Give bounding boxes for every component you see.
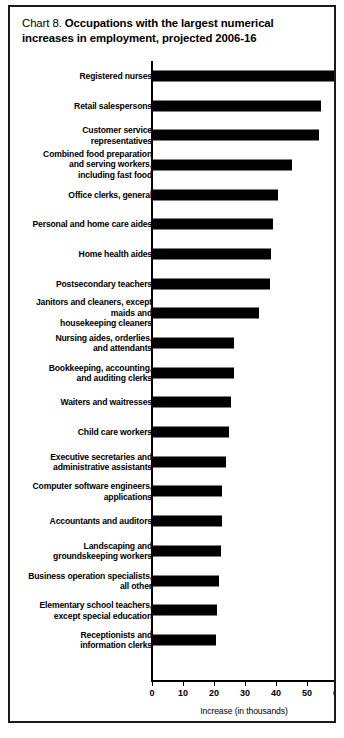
bar-row: Executive secretaries and administrative…	[10, 447, 336, 477]
bar	[152, 605, 217, 616]
bar-row: Bookkeeping, accounting, and auditing cl…	[10, 358, 336, 388]
bar-category-label: Elementary school teachers, except speci…	[24, 600, 152, 621]
x-tick-label: 0	[149, 688, 154, 698]
bar	[152, 189, 278, 200]
bar-track	[152, 595, 336, 625]
bar-row: Waiters and waitresses	[10, 388, 336, 418]
bar-track	[152, 625, 336, 655]
bar-category-label: Child care workers	[24, 427, 152, 437]
bar-row: Postsecondary teachers	[10, 269, 336, 299]
x-tick	[307, 681, 308, 686]
x-tick	[276, 681, 277, 686]
x-tick-label: 50	[302, 688, 312, 698]
bar	[152, 545, 221, 556]
bar	[152, 338, 234, 349]
chart-title-prefix: Chart 8.	[22, 17, 65, 29]
x-tick	[183, 681, 184, 686]
bar-row: Landscaping and groundskeeping workers	[10, 536, 336, 566]
x-tick-label: 60	[333, 688, 336, 698]
bar	[152, 456, 226, 467]
bar-category-label: Bookkeeping, accounting, and auditing cl…	[24, 362, 152, 383]
plot-area: Registered nursesRetail salespersonsCust…	[10, 61, 336, 691]
bar-track	[152, 447, 336, 477]
bar	[152, 427, 229, 438]
bar-row: Customer service representatives	[10, 120, 336, 150]
x-tick-label: 20	[209, 688, 219, 698]
bar-track	[152, 180, 336, 210]
bar-category-label: Computer software engineers, application…	[24, 481, 152, 502]
bar-category-label: Business operation specialists, all othe…	[24, 570, 152, 591]
bar-row: Office clerks, general	[10, 180, 336, 210]
bar-row: Elementary school teachers, except speci…	[10, 595, 336, 625]
bar-category-label: Personal and home care aides	[24, 219, 152, 229]
bar-track	[152, 239, 336, 269]
bar-row: Accountants and auditors	[10, 506, 336, 536]
bar-track	[152, 506, 336, 536]
bar-row: Retail salespersons	[10, 91, 336, 121]
bar-category-label: Receptionists and information clerks	[24, 630, 152, 651]
bar-row: Personal and home care aides	[10, 209, 336, 239]
bar-track	[152, 417, 336, 447]
bar-row: Nursing aides, orderlies, and attendants	[10, 328, 336, 358]
bar-category-label: Nursing aides, orderlies, and attendants	[24, 333, 152, 354]
bar-category-label: Executive secretaries and administrative…	[24, 451, 152, 472]
bar-category-label: Waiters and waitresses	[24, 397, 152, 407]
bar	[152, 70, 334, 81]
bar-row: Business operation specialists, all othe…	[10, 566, 336, 596]
x-tick	[152, 681, 153, 686]
chart-container: Chart 8. Occupations with the largest nu…	[8, 5, 336, 723]
bar-track	[152, 299, 336, 329]
bar-row: Janitors and cleaners, except maids and …	[10, 299, 336, 329]
bar-category-label: Combined food preparation and serving wo…	[24, 149, 152, 180]
bar-track	[152, 358, 336, 388]
bar	[152, 367, 234, 378]
bar-track	[152, 120, 336, 150]
bar-rows: Registered nursesRetail salespersonsCust…	[10, 61, 336, 655]
bar-category-label: Retail salespersons	[24, 100, 152, 110]
bar-track	[152, 269, 336, 299]
bar-track	[152, 388, 336, 418]
bar-track	[152, 209, 336, 239]
bar-category-label: Home health aides	[24, 249, 152, 259]
x-tick-label: 30	[240, 688, 250, 698]
bar-row: Home health aides	[10, 239, 336, 269]
bar	[152, 516, 222, 527]
bar-row: Combined food preparation and serving wo…	[10, 150, 336, 180]
x-tick	[214, 681, 215, 686]
bar	[152, 634, 216, 645]
bar-category-label: Accountants and auditors	[24, 516, 152, 526]
bar-category-label: Postsecondary teachers	[24, 278, 152, 288]
bar-track	[152, 91, 336, 121]
x-tick-label: 40	[271, 688, 281, 698]
bar-track	[152, 477, 336, 507]
x-axis-title: Increase (in thousands)	[151, 706, 336, 716]
bar-track	[152, 150, 336, 180]
bar-category-label: Office clerks, general	[24, 189, 152, 199]
bar-category-label: Registered nurses	[24, 71, 152, 81]
bar-category-label: Landscaping and groundskeeping workers	[24, 540, 152, 561]
bar-track	[152, 328, 336, 358]
bar-track	[152, 566, 336, 596]
x-tick	[245, 681, 246, 686]
bar	[152, 308, 259, 319]
bar-row: Child care workers	[10, 417, 336, 447]
bar-row: Registered nurses	[10, 61, 336, 91]
bar	[152, 100, 321, 111]
bar	[152, 575, 219, 586]
bar	[152, 159, 292, 170]
bar	[152, 248, 271, 259]
bar	[152, 278, 270, 289]
bar	[152, 219, 273, 230]
bar	[152, 486, 222, 497]
bar	[152, 130, 319, 141]
bar-track	[152, 61, 336, 91]
x-tick-label: 10	[178, 688, 188, 698]
bar-track	[152, 536, 336, 566]
bar-category-label: Customer service representatives	[24, 125, 152, 146]
bar-row: Receptionists and information clerks	[10, 625, 336, 655]
bar	[152, 397, 231, 408]
bar-category-label: Janitors and cleaners, except maids and …	[24, 298, 152, 329]
chart-title: Chart 8. Occupations with the largest nu…	[22, 16, 322, 45]
bar-row: Computer software engineers, application…	[10, 477, 336, 507]
